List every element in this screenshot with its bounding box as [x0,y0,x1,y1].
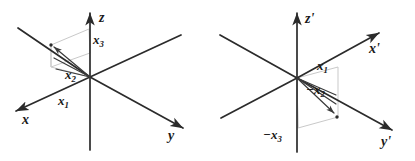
figure-root: x y z x3 x2 x1 [0,0,415,161]
axis-label-z: z [98,10,105,25]
axis-label-y: y [166,128,175,143]
point-marker [49,43,52,46]
axis-label-x: x [21,112,29,127]
axis-label-z-prime: z' [304,11,314,26]
axis-label-x-prime: x' [368,41,380,56]
axis-label-y-prime: y' [379,134,391,149]
coordinate-diagram-right: x' y' z' x1 −x2 −x3 [207,0,415,161]
point-marker [335,115,338,118]
coordinate-diagram-left: x y z x3 x2 x1 [0,0,207,161]
